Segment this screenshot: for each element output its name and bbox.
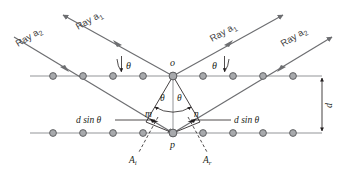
atom: [110, 130, 117, 137]
point-p-label: p: [169, 139, 175, 150]
atom: [290, 130, 297, 137]
path-difference-left-label: d sin θ: [76, 115, 102, 125]
angle-arc-top-left: [117, 56, 122, 72]
atom-row-bottom: [50, 129, 297, 137]
spacing-d-label: d: [323, 102, 334, 108]
atom: [260, 130, 267, 137]
atom: [140, 130, 147, 137]
atom: [260, 73, 267, 80]
atom-p: [169, 129, 177, 137]
atom-row-top: [50, 72, 297, 80]
theta-top-right-label: θ: [212, 60, 217, 71]
atom: [80, 73, 87, 80]
theta-inner-right-label: θ: [177, 93, 182, 103]
point-n-label: n: [194, 109, 199, 119]
path-difference-leader-right: [188, 119, 232, 123]
angle-arc-top-right: [225, 56, 230, 72]
atom: [50, 130, 57, 137]
diagram-canvas: Ray a1 Ray a2 Ray a1 Ray a2 θ θ θ θ o p …: [0, 0, 346, 172]
point-o-label: o: [170, 57, 175, 68]
plane-incident-label: Ai: [128, 155, 137, 167]
atom-o: [169, 72, 177, 80]
path-difference-leader-left: [115, 119, 159, 123]
ray-a2-reflected-label: Ray a2: [278, 24, 309, 50]
atom: [230, 130, 237, 137]
path-difference-right-label: d sin θ: [234, 115, 260, 125]
atom: [50, 73, 57, 80]
atom: [200, 73, 207, 80]
theta-inner-left-label: θ: [160, 93, 165, 103]
plane-reflected-label: Ar: [202, 155, 212, 167]
atom: [230, 73, 237, 80]
atom: [140, 73, 147, 80]
bragg-diffraction-diagram: Ray a1 Ray a2 Ray a1 Ray a2 θ θ θ θ o p …: [0, 0, 346, 172]
theta-top-left-label: θ: [126, 60, 131, 71]
construction-lines: [146, 76, 200, 133]
atom: [110, 73, 117, 80]
atom: [290, 73, 297, 80]
atom: [200, 130, 207, 137]
ray-a1-reflected-label: Ray a1: [208, 20, 239, 45]
atom: [80, 130, 87, 137]
point-m-label: m: [145, 109, 152, 119]
